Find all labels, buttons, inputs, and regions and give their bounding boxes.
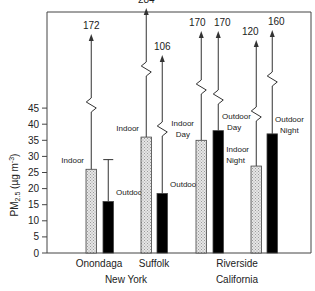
bar-riverside-indoor-day: 170IndoorDay: [171, 17, 206, 253]
max-value-label: 172: [83, 20, 100, 31]
max-value-label: 160: [268, 16, 285, 27]
x-category-label: Suffolk: [139, 258, 170, 269]
max-range-line: [157, 61, 167, 193]
y-tick-label: 35: [28, 135, 40, 146]
bar-label: Indoor: [116, 124, 139, 133]
bar: [213, 131, 224, 253]
bar: [251, 166, 262, 253]
y-tick-label: 5: [33, 231, 39, 242]
arrow-up-icon: [160, 55, 165, 62]
bar-onondaga-outdoor: Outdoor: [103, 160, 145, 253]
max-range-line: [86, 40, 96, 169]
y-tick-label: 25: [28, 167, 40, 178]
arrow-up-icon: [254, 40, 259, 47]
bar: [267, 134, 278, 253]
bar-suffolk-outdoor: 106Outdoor: [154, 41, 199, 253]
max-value-label: 120: [242, 26, 259, 37]
max-range-line: [141, 14, 151, 137]
y-tick-label: 45: [28, 103, 40, 114]
bar-label: Indoor: [61, 156, 84, 165]
arrow-up-icon: [89, 34, 94, 41]
max-value-label: 170: [189, 17, 206, 28]
y-tick-label: 0: [33, 248, 39, 259]
y-axis: 051015202530354045: [28, 103, 47, 259]
bar-label: Outdoor: [170, 180, 199, 189]
bars: 172IndoorOutdoor284Indoor106Outdoor170In…: [61, 0, 304, 253]
bar: [141, 137, 152, 253]
pm25-bar-chart: 051015202530354045 PM2.5 (µg m-3) 172Ind…: [0, 0, 315, 291]
arrow-up-icon: [216, 31, 221, 38]
bar-label-line2: Day: [176, 130, 190, 139]
bar-onondaga-indoor: 172Indoor: [61, 20, 100, 253]
bar: [157, 193, 168, 253]
bar-riverside-indoor-night: 120IndoorNight: [226, 26, 261, 253]
y-tick-label: 30: [28, 151, 40, 162]
max-value-label: 170: [214, 17, 231, 28]
y-tick-label: 10: [28, 215, 40, 226]
x-group-label: California: [216, 274, 259, 285]
bar-label: Outdoor: [222, 112, 251, 121]
max-range-line: [196, 37, 206, 140]
bar: [103, 201, 114, 253]
max-value-label: 284: [138, 0, 155, 5]
bar-suffolk-indoor: 284Indoor: [116, 0, 155, 253]
bar-label: Outdoor: [275, 115, 304, 124]
x-group-label: New York: [105, 274, 148, 285]
y-tick-label: 15: [28, 199, 40, 210]
x-category-label: Riverside: [216, 258, 258, 269]
x-category-label: Onondaga: [76, 258, 123, 269]
arrow-up-icon: [270, 30, 275, 37]
bar-label-line2: Day: [227, 123, 241, 132]
bar-label-line2: Night: [280, 126, 299, 135]
y-tick-label: 20: [28, 183, 40, 194]
bar-label: Indoor: [171, 119, 194, 128]
bar-riverside-outdoor-day: 170OutdoorDay: [213, 17, 251, 253]
max-value-label: 106: [154, 41, 171, 52]
bar-label-line2: Night: [226, 156, 245, 165]
bar-label: Indoor: [226, 145, 249, 154]
arrow-up-icon: [199, 31, 204, 38]
y-axis-label: PM2.5 (µg m-3): [8, 154, 21, 217]
bar: [86, 169, 97, 253]
x-axis-labels: OnondagaSuffolkRiversideNew YorkCaliforn…: [76, 258, 259, 285]
max-range-line: [251, 46, 261, 166]
y-tick-label: 40: [28, 119, 40, 130]
bar-riverside-outdoor-night: 160OutdoorNight: [267, 16, 304, 253]
bar: [196, 140, 207, 253]
